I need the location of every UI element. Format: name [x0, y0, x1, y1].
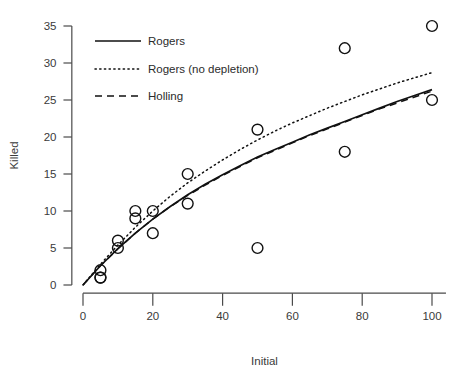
- data-point: [427, 21, 438, 32]
- x-tick-label: 80: [356, 310, 369, 322]
- y-axis-title: Killed: [8, 141, 20, 169]
- data-point: [427, 95, 438, 106]
- legend-label: Rogers (no depletion): [148, 63, 259, 75]
- x-tick-label: 0: [80, 310, 86, 322]
- data-point: [339, 146, 350, 157]
- data-points: [95, 21, 437, 283]
- y-tick-label: 30: [44, 57, 57, 69]
- data-point: [130, 213, 141, 224]
- data-point: [95, 272, 106, 283]
- y-tick-label: 15: [44, 168, 57, 180]
- x-tick-label: 40: [216, 310, 229, 322]
- y-axis-ticks: 05101520253035: [44, 20, 72, 291]
- legend-label: Holling: [148, 90, 183, 102]
- legend-label: Rogers: [148, 35, 185, 47]
- chart-container: 05101520253035 020406080100 RogersRogers…: [0, 0, 464, 386]
- scatter-plot: 05101520253035 020406080100 RogersRogers…: [0, 0, 464, 386]
- y-tick-label: 10: [44, 205, 57, 217]
- x-axis-ticks: 020406080100: [80, 293, 442, 322]
- y-tick-label: 5: [50, 242, 56, 254]
- legend: RogersRogers (no depletion)Holling: [95, 35, 259, 102]
- y-tick-label: 25: [44, 94, 57, 106]
- y-tick-label: 20: [44, 131, 57, 143]
- data-point: [147, 228, 158, 239]
- data-point: [182, 169, 193, 180]
- data-point: [252, 124, 263, 135]
- series-line-solid: [83, 90, 432, 285]
- y-tick-label: 0: [50, 279, 56, 291]
- data-point: [147, 206, 158, 217]
- x-axis-title: Initial: [251, 355, 278, 367]
- x-tick-label: 20: [146, 310, 159, 322]
- data-point: [339, 43, 350, 54]
- y-tick-label: 35: [44, 20, 57, 32]
- series-line-dashed: [83, 91, 432, 285]
- data-point: [182, 198, 193, 209]
- data-point: [252, 243, 263, 254]
- x-tick-label: 60: [286, 310, 299, 322]
- x-tick-label: 100: [422, 310, 441, 322]
